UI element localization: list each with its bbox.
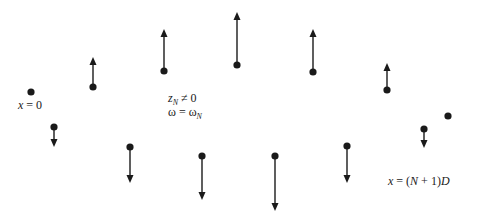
lower-mass-4 [271, 152, 278, 211]
lower-mass-5 [343, 142, 350, 183]
condition-zN-rest: ≠ 0 [178, 91, 197, 105]
upper-mass-2 [89, 57, 96, 91]
left-end-label: x = 0 [18, 98, 42, 112]
right-end-mid: + 1) [418, 174, 441, 188]
arrow-down-icon [51, 139, 58, 147]
arrow-up-icon [234, 12, 241, 20]
mass-dot-icon [343, 142, 350, 149]
condition-omega-label: ω = ωN [168, 105, 202, 124]
arrow-up-icon [90, 57, 97, 65]
mass-dot-icon [420, 125, 427, 132]
upper-mass-6 [383, 63, 390, 94]
mass-dot-icon [309, 68, 316, 75]
condition-omega-var: ω [168, 105, 176, 119]
arrow-down-icon [344, 175, 351, 183]
lower-mass-2 [126, 143, 133, 183]
upper-mass-5 [309, 29, 316, 76]
arrow-up-icon [384, 63, 391, 71]
condition-omega-var2: ω [189, 105, 197, 119]
mass-dot-icon [126, 143, 133, 150]
condition-omega-sub: N [197, 112, 202, 121]
arrow-down-icon [127, 175, 134, 183]
right-end-n: N [410, 174, 418, 188]
arrow-down-icon [272, 203, 279, 211]
arrow-down-icon [199, 192, 206, 200]
right-end-d: D [441, 174, 450, 188]
lower-mass-row [50, 123, 427, 211]
mass-dot-icon [444, 112, 451, 119]
mass-dot-icon [271, 152, 278, 159]
mass-dot-icon [160, 67, 167, 74]
arrow-up-icon [161, 29, 168, 37]
left-end-eq: = 0 [23, 98, 42, 112]
lower-mass-1 [50, 123, 57, 147]
standing-wave-diagram [0, 0, 477, 223]
mass-dot-icon [89, 83, 96, 90]
right-end-label: x = (N + 1)D [388, 174, 450, 188]
upper-mass-4 [233, 12, 240, 69]
upper-mass-3 [160, 29, 167, 75]
mass-dot-icon [50, 123, 57, 130]
arrow-down-icon [421, 140, 428, 148]
lower-mass-6 [420, 125, 427, 148]
upper-mass-row [27, 12, 451, 120]
arrow-up-icon [310, 29, 317, 37]
mass-dot-icon [27, 88, 34, 95]
right-end-eq: = ( [393, 174, 410, 188]
lower-mass-3 [198, 152, 205, 200]
mass-dot-icon [383, 86, 390, 93]
condition-omega-eq: = [176, 105, 189, 119]
mass-dot-icon [233, 61, 240, 68]
mass-dot-icon [198, 152, 205, 159]
upper-mass-1 [27, 88, 34, 95]
upper-mass-7 [444, 112, 451, 119]
